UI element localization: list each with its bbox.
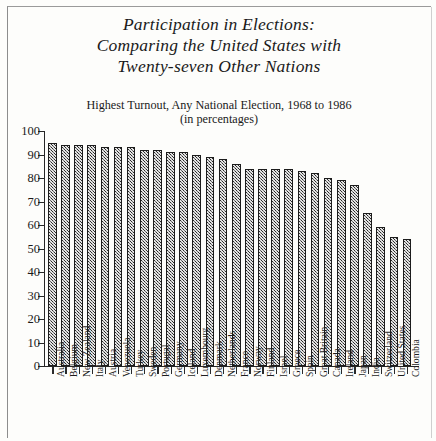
bar bbox=[61, 145, 70, 366]
y-tick-label: 90 bbox=[28, 148, 41, 161]
y-tick-label: 10 bbox=[28, 336, 41, 349]
x-axis-label: United States bbox=[397, 326, 407, 377]
x-axis-label: Finland bbox=[266, 348, 276, 377]
x-axis-label: Austria bbox=[108, 349, 118, 377]
subtitle-line-2: (in percentages) bbox=[18, 112, 420, 126]
x-axis-label: India bbox=[371, 357, 381, 377]
bar bbox=[153, 150, 162, 366]
x-axis-label: Luxembourg bbox=[200, 328, 210, 377]
bar bbox=[284, 169, 293, 366]
x-axis-label: Japan bbox=[358, 355, 368, 377]
x-axis-label: Norway bbox=[253, 346, 263, 377]
x-axis-label: France bbox=[240, 351, 250, 377]
y-tick-label: 30 bbox=[28, 289, 41, 302]
x-axis-label: Netherlands bbox=[227, 331, 237, 377]
y-tick-label: 20 bbox=[28, 313, 41, 326]
x-axis-label: Belgium bbox=[69, 344, 79, 377]
chart-page: Participation in Elections: Comparing th… bbox=[0, 0, 436, 441]
bar bbox=[271, 169, 280, 366]
x-tick-mark bbox=[302, 367, 303, 374]
title-line-1: Participation in Elections: bbox=[18, 14, 420, 35]
bar bbox=[179, 152, 188, 366]
x-axis-label: Italy bbox=[95, 359, 105, 377]
y-tick-label: 40 bbox=[28, 266, 41, 279]
x-axis-label: Canada bbox=[332, 348, 342, 377]
y-tick-label: 0 bbox=[34, 360, 40, 373]
bar bbox=[166, 152, 175, 366]
x-axis-label: Iceland bbox=[187, 349, 197, 377]
y-tick-label: 50 bbox=[28, 242, 41, 255]
bar bbox=[48, 143, 57, 366]
x-tick-mark bbox=[118, 367, 119, 374]
x-tick-mark bbox=[315, 367, 316, 374]
bar bbox=[114, 147, 123, 366]
bar bbox=[337, 180, 346, 366]
bar bbox=[258, 169, 267, 366]
x-tick-mark bbox=[105, 367, 106, 374]
x-tick-mark bbox=[394, 367, 395, 374]
bar bbox=[363, 213, 372, 366]
x-axis-label: Turkey bbox=[135, 350, 145, 377]
y-tick-label: 100 bbox=[21, 125, 40, 138]
x-axis-label: Portugal bbox=[161, 344, 171, 377]
x-axis-label: Venezuela bbox=[122, 338, 132, 377]
chart-subtitle: Highest Turnout, Any National Election, … bbox=[18, 98, 420, 126]
subtitle-line-1: Highest Turnout, Any National Election, … bbox=[18, 98, 420, 112]
x-axis-label: Colombia bbox=[411, 339, 421, 377]
x-tick-mark bbox=[407, 367, 408, 374]
x-tick-mark bbox=[210, 367, 211, 374]
title-line-3: Twenty-seven Other Nations bbox=[18, 56, 420, 77]
x-axis-label: Australia bbox=[56, 342, 66, 377]
y-axis-line bbox=[44, 131, 45, 366]
bar bbox=[140, 150, 149, 366]
bar bbox=[245, 169, 254, 366]
x-axis-label: Ireland bbox=[345, 350, 355, 377]
x-axis-label: Sweden bbox=[148, 347, 158, 377]
bar bbox=[127, 147, 136, 366]
chart-title: Participation in Elections: Comparing th… bbox=[18, 14, 420, 77]
x-axis-label: Israel bbox=[279, 356, 289, 377]
x-axis-label: Switzerland bbox=[384, 331, 394, 377]
x-axis-label: Greece bbox=[292, 350, 302, 377]
x-axis-label: Denmark bbox=[214, 341, 224, 377]
y-tick-label: 70 bbox=[28, 195, 41, 208]
x-axis-label: Germany bbox=[174, 341, 184, 377]
x-axis-label: Great Britain bbox=[319, 327, 329, 377]
x-axis-label: Spain bbox=[305, 355, 315, 377]
bar bbox=[101, 147, 110, 366]
bar bbox=[350, 185, 359, 366]
title-line-2: Comparing the United States with bbox=[18, 35, 420, 56]
x-tick-mark bbox=[52, 367, 53, 374]
x-axis-label: New Zealand bbox=[82, 326, 92, 377]
y-tick-label: 80 bbox=[28, 172, 41, 185]
bar bbox=[298, 171, 307, 366]
plot-area: 0102030405060708090100 AustraliaBelgiumN… bbox=[44, 131, 419, 366]
y-tick-label: 60 bbox=[28, 219, 41, 232]
